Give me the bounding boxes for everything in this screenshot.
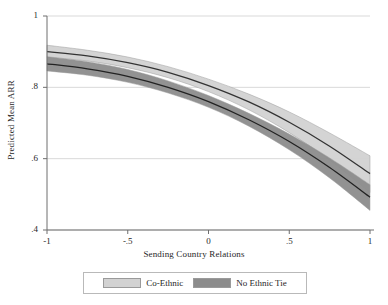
legend-entry-co-ethnic[interactable]: Co-Ethnic <box>103 278 183 288</box>
axis-ticks <box>43 16 370 234</box>
chart-legend: Co-Ethnic No Ethnic Tie <box>83 272 307 294</box>
x-axis-title: Sending Country Relations <box>0 249 388 259</box>
legend-swatch-co-ethnic <box>103 278 141 288</box>
gridlines <box>47 16 370 230</box>
y-tick-label: .4 <box>10 224 38 234</box>
y-tick-label: .6 <box>10 153 38 163</box>
legend-label-co-ethnic: Co-Ethnic <box>146 278 183 288</box>
y-tick-label: .8 <box>10 81 38 91</box>
chart-figure: Predicted Mean ARR Sending Country Relat… <box>0 0 388 305</box>
legend-entry-no-ethnic-tie[interactable]: No Ethnic Tie <box>193 278 287 288</box>
legend-swatch-no-ethnic-tie <box>193 278 231 288</box>
x-tick-label: -1 <box>32 236 62 246</box>
y-tick-label: 1 <box>10 10 38 20</box>
x-tick-label: 0 <box>194 236 224 246</box>
plot-area <box>0 0 388 305</box>
legend-label-no-ethnic-tie: No Ethnic Tie <box>236 278 287 288</box>
x-tick-label: -.5 <box>113 236 143 246</box>
x-tick-label: .5 <box>274 236 304 246</box>
axis-lines <box>47 16 374 230</box>
x-tick-label: 1 <box>355 236 385 246</box>
